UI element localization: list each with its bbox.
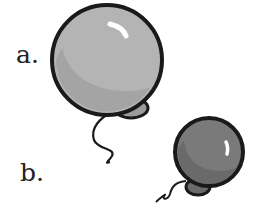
balloon-b <box>156 118 243 202</box>
balloon-a <box>52 5 162 163</box>
balloon-a-string <box>93 112 112 163</box>
balloon-b-highlight <box>226 142 228 154</box>
balloon-b-string <box>156 181 186 202</box>
